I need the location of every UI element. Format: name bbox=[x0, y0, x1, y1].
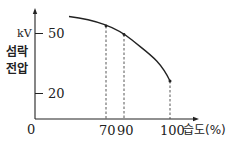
x-axis-label: 습도(%) bbox=[183, 124, 226, 136]
x-tick-label-100: 100 bbox=[160, 124, 185, 137]
x-tick-label-90: 90 bbox=[117, 124, 134, 137]
data-point-100 bbox=[169, 80, 172, 83]
y-axis-label-line2: 전압 bbox=[6, 63, 28, 75]
y-unit-label: kV bbox=[17, 28, 32, 39]
y-tick-label-20: 20 bbox=[48, 87, 65, 100]
y-axis-label-line1: 섬락 bbox=[6, 46, 28, 58]
flashover-voltage-chart bbox=[0, 0, 232, 142]
y-axis-arrow-icon bbox=[33, 8, 37, 14]
voltage-curve bbox=[69, 17, 170, 82]
x-axis-label-text: 습도(%) bbox=[183, 123, 226, 137]
x-tick-label-70: 70 bbox=[99, 124, 116, 137]
x-axis-arrow-icon bbox=[193, 117, 199, 121]
data-point-90 bbox=[123, 33, 126, 36]
y-tick-label-50: 50 bbox=[48, 27, 65, 40]
data-point-70 bbox=[105, 25, 108, 28]
origin-label: 0 bbox=[27, 123, 35, 136]
